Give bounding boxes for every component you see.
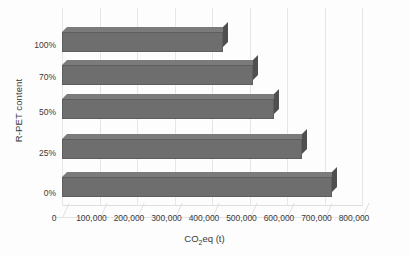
- x-axis-title-prefix: CO: [184, 233, 198, 244]
- x-axis-title: CO2eq (t): [0, 233, 409, 246]
- bar-front-face: [62, 65, 253, 85]
- x-tick-label: 800,000: [324, 213, 384, 223]
- bar-front-face: [62, 99, 274, 119]
- plot-area: [62, 8, 362, 206]
- bar: [62, 99, 274, 119]
- gridline: [362, 8, 363, 206]
- bar-front-face: [62, 32, 223, 52]
- y-tick-label: 70%: [4, 72, 56, 82]
- y-tick-label: 50%: [4, 107, 56, 117]
- x-axis-title-suffix: eq (t): [202, 233, 224, 244]
- bar: [62, 65, 253, 85]
- bar-front-face: [62, 177, 332, 197]
- bar: [62, 177, 332, 197]
- y-tick-label: 100%: [4, 40, 56, 50]
- y-tick-label: 0%: [4, 188, 56, 198]
- bar: [62, 139, 302, 159]
- chart-container: R-PET content 100% 70% 50% 25% 0% 0100,0…: [0, 0, 409, 257]
- y-tick-label: 25%: [4, 148, 56, 158]
- bar: [62, 32, 223, 52]
- bar-front-face: [62, 139, 302, 159]
